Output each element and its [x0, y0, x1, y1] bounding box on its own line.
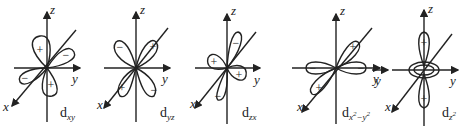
d-orbitals-diagram: z y x z y x z y x z y x z y y x + − − + … — [0, 0, 462, 128]
lobe-sign: + — [37, 44, 44, 56]
axis-label-x: x — [297, 100, 303, 113]
lobe-sign: + — [119, 82, 126, 94]
lobe-sign: + — [211, 56, 218, 68]
axis-label-z: z — [428, 2, 433, 15]
axis-label-x: x — [385, 100, 391, 113]
axis-label-x: x — [3, 100, 9, 113]
axis-label-y-left: y — [375, 74, 381, 87]
lobe-sign: + — [421, 93, 428, 105]
orbital-label-dxy: dxy — [60, 106, 75, 122]
lobe-sign: − — [22, 72, 29, 84]
lobe-sign: − — [310, 62, 317, 74]
lobe-sign: − — [63, 49, 70, 61]
orbital-label-dz2: dz2 — [442, 106, 456, 122]
axis-label-z: z — [340, 4, 345, 17]
orbital-label-dzx: dzx — [242, 106, 257, 122]
lobe-sign: + — [236, 69, 243, 81]
axis-label-z: z — [140, 3, 145, 16]
lobe-sign: + — [48, 79, 55, 91]
lobe-sign: + — [421, 37, 428, 49]
axis-label-z: z — [231, 4, 236, 17]
lobe-sign: + — [350, 41, 357, 53]
orbital-label-dx2y2: dx2−y2 — [342, 106, 370, 122]
lobe-sign: − — [215, 90, 222, 102]
orbital-label-dyz: dyz — [160, 106, 175, 122]
axis-label-x: x — [97, 98, 103, 111]
lobe-sign: − — [151, 84, 158, 96]
axis-label-y: y — [450, 74, 456, 87]
axis-label-z: z — [50, 3, 55, 16]
lobe-sign: − — [117, 41, 124, 53]
lobe-sign: + — [316, 82, 323, 94]
axis-label-x: x — [190, 97, 196, 110]
axis-label-y: y — [254, 73, 260, 86]
lobe-sign: + — [150, 41, 157, 53]
axis-label-y: y — [162, 72, 168, 85]
lobe-sign: − — [358, 62, 365, 74]
lobe-sign: − — [233, 37, 240, 49]
axis-label-y: y — [72, 72, 78, 85]
